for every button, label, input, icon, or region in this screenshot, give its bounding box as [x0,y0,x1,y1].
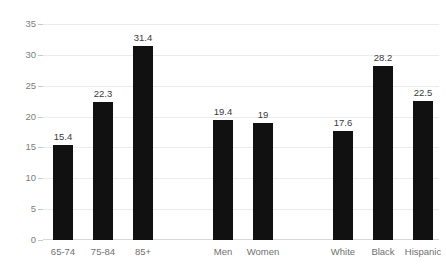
bar-slot-75-84: 22.3 [83,24,123,240]
bar-slot-85-plus: 31.4 [123,24,163,240]
bar-slot-spacer-2 [283,24,323,240]
bar-women[interactable] [253,123,273,240]
bar-value-label: 31.4 [123,32,163,43]
y-tick-label: 35 [0,19,36,29]
y-tick-label: 20 [0,112,36,122]
bar-men[interactable] [213,120,233,240]
y-tick-label: 0 [0,235,36,245]
y-tick-label: 5 [0,204,36,214]
bar-white[interactable] [333,131,353,240]
bar-value-label: 22.3 [83,88,123,99]
y-axis-tick-labels: 35 30 25 20 15 10 5 0 [0,24,36,240]
bar-value-label: 22.5 [403,87,443,98]
bar-value-label: 15.4 [43,131,83,142]
bar-hispanic[interactable] [413,101,433,240]
bar-slot-spacer-1 [163,24,203,240]
bar-slot-white: 17.6 [323,24,363,240]
x-label-hispanic: Hispanic [396,246,446,258]
bar-black[interactable] [373,66,393,240]
y-tick-mark [38,240,43,241]
bar-value-label: 28.2 [363,52,403,63]
bar-slot-men: 19.4 [203,24,243,240]
bar-75-84[interactable] [93,102,113,240]
y-tick-label: 30 [0,50,36,60]
bar-85-plus[interactable] [133,46,153,240]
bar-value-label: 19.4 [203,106,243,117]
x-axis-labels: 65-74 75-84 85+ Men Women White Black Hi… [43,246,439,266]
bar-65-74[interactable] [53,145,73,240]
x-label-women: Women [236,246,290,258]
bar-value-label: 17.6 [323,117,363,128]
y-tick-label: 25 [0,81,36,91]
bar-slot-65-74: 15.4 [43,24,83,240]
bar-chart: 35 30 25 20 15 10 5 0 15.4 [0,0,446,278]
bar-slot-hispanic: 22.5 [403,24,443,240]
y-tick-label: 15 [0,142,36,152]
bar-slot-black: 28.2 [363,24,403,240]
y-tick-label: 10 [0,173,36,183]
bar-slot-women: 19 [243,24,283,240]
x-label-85-plus: 85+ [116,246,170,258]
bars-layer: 15.4 22.3 31.4 19.4 19 17.6 28.2 [43,24,439,240]
bar-value-label: 19 [243,109,283,120]
